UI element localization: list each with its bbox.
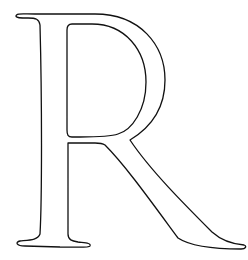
inner-bowl-contour (67, 24, 146, 137)
letter-r-outline-icon (0, 0, 248, 260)
outer-contour (16, 14, 246, 249)
letter-r-figure: R (0, 0, 248, 260)
